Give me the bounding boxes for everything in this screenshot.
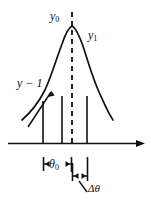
label-y-one-subscript: 1 bbox=[93, 34, 97, 43]
label-delta-theta-text: Δθ bbox=[88, 182, 100, 194]
x-axis-arrowhead bbox=[136, 140, 145, 147]
intensity-curve bbox=[22, 26, 113, 120]
figure-container: y0 y1 y − 1 θ0 Δθ bbox=[0, 0, 151, 215]
label-y-minus-one: y − 1 bbox=[17, 77, 42, 89]
label-theta-zero-subscript: 0 bbox=[55, 163, 59, 172]
label-y-zero: y0 bbox=[50, 10, 59, 24]
delta-theta-arrow-right bbox=[82, 173, 87, 179]
label-y-one: y1 bbox=[88, 29, 97, 43]
label-y-zero-subscript: 0 bbox=[55, 15, 59, 24]
label-theta-zero: θ0 bbox=[49, 158, 59, 172]
figure-drawing bbox=[0, 0, 151, 215]
delta-theta-dimension bbox=[73, 157, 88, 192]
x-axis bbox=[8, 140, 145, 147]
label-delta-theta: Δθ bbox=[88, 183, 100, 194]
delta-theta-arrow-left bbox=[74, 173, 79, 179]
theta0-arrow-right bbox=[66, 161, 71, 167]
delta-theta-label-leader bbox=[79, 181, 87, 192]
